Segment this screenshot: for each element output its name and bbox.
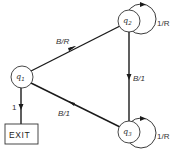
edge-label-q3-loop: 1/R xyxy=(157,132,170,141)
edge-q1-to-q2: B/R xyxy=(31,26,120,71)
arrowhead-icon xyxy=(140,2,146,7)
exit-box: EXIT xyxy=(5,124,38,144)
arrowhead-icon xyxy=(19,104,24,110)
arrowhead-icon xyxy=(140,116,146,121)
edge-label-q1-q2: B/R xyxy=(56,37,70,46)
edge-q3-to-q1: B/1 xyxy=(31,83,120,127)
state-q1: q1 xyxy=(11,66,33,88)
exit-label: EXIT xyxy=(9,130,30,140)
arrowhead-icon xyxy=(68,101,75,106)
edge-label-q3-q1: B/1 xyxy=(58,109,70,118)
edge-label-q2-loop: 1/R xyxy=(157,19,170,28)
state-q2: q2 xyxy=(118,10,140,32)
edge-label-q2-q3: B/1 xyxy=(133,74,145,83)
state-q3: q3 xyxy=(118,121,140,143)
state-diagram: B/R B/1 B/1 1 1/R 1/R q1 xyxy=(0,0,175,155)
edge-q2-to-q3: B/1 xyxy=(127,31,146,122)
arrowhead-icon xyxy=(127,74,132,80)
edge-label-q1-exit: 1 xyxy=(12,103,17,112)
edge-q1-to-exit: 1 xyxy=(12,87,24,124)
